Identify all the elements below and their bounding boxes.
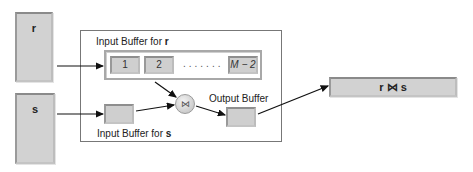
flow-arrows xyxy=(0,0,473,172)
arrow-join-to-output xyxy=(196,106,225,115)
arrow-rbuffer-to-join xyxy=(155,82,176,97)
arrow-output-to-result xyxy=(258,86,328,114)
arrow-sbuffer-to-join xyxy=(136,105,174,111)
